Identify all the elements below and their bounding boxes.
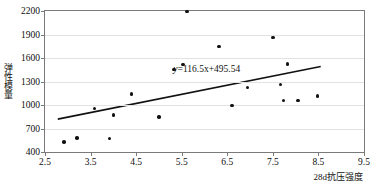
data-point <box>181 63 184 66</box>
data-point <box>185 10 188 13</box>
y-tick-label: 700 <box>26 124 40 134</box>
y-tick-mark <box>41 105 45 106</box>
y-tick-label: 1600 <box>21 53 40 63</box>
x-tick-label: 2.5 <box>39 157 51 167</box>
scatter-chart: 弹性模量 y=116.5x+495.54 4007001000130016001… <box>0 0 385 195</box>
data-point <box>282 99 285 102</box>
y-tick-label: 1300 <box>21 77 40 87</box>
y-gridline <box>45 58 364 59</box>
data-point <box>75 136 78 139</box>
data-point <box>62 140 65 143</box>
y-tick-label: 400 <box>26 147 40 157</box>
y-tick-label: 1900 <box>21 30 40 40</box>
x-tick-label: 4.5 <box>130 157 142 167</box>
x-tick-mark <box>91 152 92 156</box>
x-tick-mark <box>227 152 228 156</box>
y-gridline <box>45 82 364 83</box>
y-tick-label: 2200 <box>21 6 40 16</box>
x-tick-label: 7.5 <box>267 157 279 167</box>
y-gridline <box>45 35 364 36</box>
equation-body: =116.5x+495.54 <box>178 64 241 74</box>
x-tick-mark <box>318 152 319 156</box>
x-tick-mark <box>364 152 365 156</box>
data-point <box>112 113 115 116</box>
y-axis-title: 弹性模量 <box>2 63 15 99</box>
data-point <box>230 104 233 107</box>
x-tick-mark <box>182 152 183 156</box>
y-gridline <box>45 129 364 130</box>
x-tick-mark <box>136 152 137 156</box>
data-point <box>286 62 289 65</box>
x-tick-mark <box>45 152 46 156</box>
y-tick-mark <box>41 129 45 130</box>
data-point <box>130 92 133 95</box>
plot-area: y=116.5x+495.54 400700100013001600190022… <box>44 10 365 153</box>
data-point <box>157 115 160 118</box>
x-tick-label: 5.5 <box>176 157 188 167</box>
y-gridline <box>45 105 364 106</box>
data-point <box>316 94 319 97</box>
trendline <box>58 66 321 119</box>
data-point <box>172 68 175 71</box>
y-tick-label: 1000 <box>21 100 40 110</box>
x-tick-label: 8.5 <box>312 157 324 167</box>
y-tick-mark <box>41 11 45 12</box>
data-point <box>93 107 96 110</box>
y-tick-mark <box>41 82 45 83</box>
x-tick-label: 9.5 <box>358 157 370 167</box>
x-tick-mark <box>273 152 274 156</box>
x-tick-label: 3.5 <box>85 157 97 167</box>
x-axis-title: 28d抗压强度 <box>314 170 364 183</box>
y-tick-mark <box>41 58 45 59</box>
data-point <box>296 99 299 102</box>
x-tick-label: 6.5 <box>221 157 233 167</box>
y-tick-mark <box>41 35 45 36</box>
data-point <box>271 36 274 39</box>
